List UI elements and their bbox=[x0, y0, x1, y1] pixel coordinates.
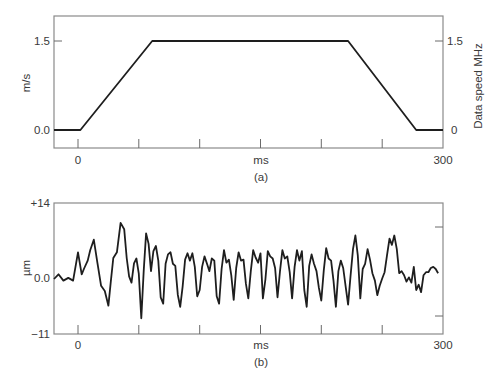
chart-b-xtick-label-300: 300 bbox=[433, 339, 452, 351]
chart-b-caption: (b) bbox=[254, 356, 268, 368]
figure: 1.5 0.0 1.5 0 0 300 ms (a) m/s Data spee… bbox=[0, 0, 499, 388]
chart-a-frame bbox=[54, 16, 443, 148]
chart-a-ytick-label-bottom: 0.0 bbox=[34, 124, 50, 136]
chart-b: +14 0.0 −11 0 300 ms (b) µm bbox=[20, 197, 453, 368]
chart-b-xtick-label-0: 0 bbox=[75, 339, 81, 351]
chart-a-right-ytick-label-top: 1.5 bbox=[447, 35, 463, 47]
chart-b-xlabel: ms bbox=[253, 339, 269, 351]
chart-b-xticks bbox=[78, 325, 382, 334]
chart-a: 1.5 0.0 1.5 0 0 300 ms (a) m/s Data spee… bbox=[20, 16, 484, 183]
chart-a-ylabel: m/s bbox=[20, 73, 32, 92]
chart-a-xticks bbox=[78, 139, 382, 148]
chart-a-ytick-label-top: 1.5 bbox=[34, 35, 50, 47]
chart-a-xlabel: ms bbox=[253, 154, 269, 166]
chart-b-displacement-line bbox=[54, 223, 438, 318]
chart-b-ytick-label-mid: 0.0 bbox=[34, 272, 50, 284]
chart-a-caption: (a) bbox=[254, 171, 268, 183]
chart-a-xtick-label-300: 300 bbox=[433, 154, 452, 166]
chart-b-ylabel: µm bbox=[20, 260, 32, 276]
chart-a-velocity-line bbox=[54, 41, 443, 130]
chart-b-ytick-label-bottom: −11 bbox=[31, 328, 50, 340]
chart-a-xtick-label-0: 0 bbox=[75, 154, 81, 166]
chart-b-ytick-label-top: +14 bbox=[30, 197, 50, 209]
chart-a-ylabel-right: Data speed MHz bbox=[472, 43, 484, 129]
chart-a-right-ytick-label-bottom: 0 bbox=[451, 124, 457, 136]
